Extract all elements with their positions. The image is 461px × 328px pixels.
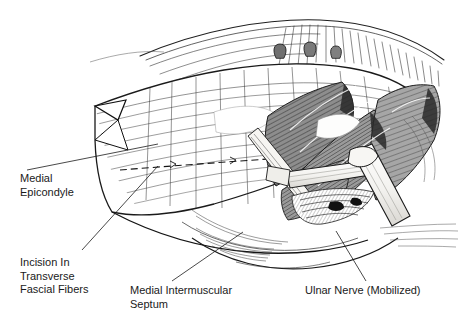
label-ulnar-nerve-mobilized: Ulnar Nerve (Mobilized) [305,284,421,298]
leader-ulnar-nerve [336,231,366,281]
figure-canvas: Medial Epicondyle Incision In Transverse… [0,0,461,328]
illustration-body [27,20,458,281]
leader-septum [172,232,243,281]
label-medial-intermuscular-septum: Medial Intermuscular Septum [130,284,232,311]
deep-tissue-detail [292,189,374,225]
label-incision-transverse-fascial-fibers: Incision In Transverse Fascial Fibers [20,256,88,297]
label-medial-epicondyle: Medial Epicondyle [20,172,74,199]
reflected-flap-edge [112,210,398,269]
